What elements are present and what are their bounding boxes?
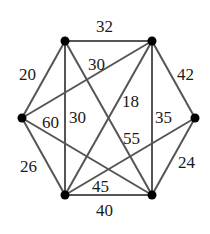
- vertex-C: [191, 114, 200, 123]
- vertex-B: [148, 37, 157, 46]
- edge-weight-label: 32: [96, 17, 113, 36]
- edge-weight-label: 40: [96, 201, 113, 220]
- edge-weight-label: 30: [88, 55, 105, 74]
- edge-weight-label: 24: [178, 153, 196, 172]
- vertex-E: [61, 191, 70, 200]
- vertex-D: [148, 191, 157, 200]
- weighted-graph: 32422440262030306018553545: [0, 0, 210, 234]
- edge-weight-label: 18: [122, 92, 139, 111]
- edge-weight-label: 42: [177, 65, 194, 84]
- edge-weight-label: 60: [42, 113, 59, 132]
- vertex-A: [61, 37, 70, 46]
- edge-weight-label: 35: [155, 108, 172, 127]
- edge-weight-label: 55: [123, 129, 140, 148]
- vertex-F: [18, 114, 27, 123]
- edge-weight-label: 30: [69, 108, 86, 127]
- edge-weight-label: 45: [92, 177, 109, 196]
- edge-weight-label: 20: [19, 65, 36, 84]
- edge-weight-label: 26: [20, 157, 37, 176]
